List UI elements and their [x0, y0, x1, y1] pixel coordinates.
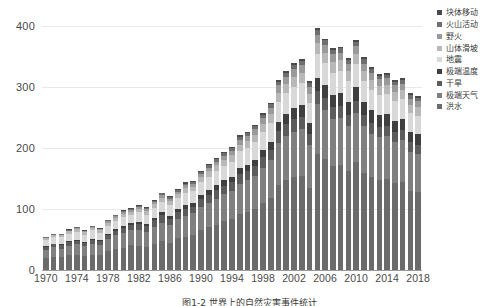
bar-segment-极端温度: [252, 160, 258, 167]
bar-segment-极端温度: [299, 105, 305, 117]
bar-segment-极端天气: [384, 136, 390, 179]
bar-2014: [384, 73, 390, 270]
bar-segment-洪水: [377, 180, 383, 270]
legend-item-7[interactable]: 极端天气: [437, 89, 499, 100]
legend-item-2[interactable]: 野火: [437, 31, 499, 42]
bar-segment-极端天气: [214, 199, 220, 225]
bar-segment-山体滑坡: [245, 141, 251, 148]
chart-legend: 块体移动火山活动野火山体滑坡地震极端温度干旱极端天气洪水: [437, 7, 499, 113]
bar-segment-极端温度: [322, 85, 328, 97]
bar-2003: [299, 59, 305, 270]
bar-segment-地震: [66, 234, 72, 241]
bar-segment-极端天气: [105, 239, 111, 251]
bar-1980: [121, 210, 127, 270]
bar-segment-山体滑坡: [361, 71, 367, 81]
bar-segment-洪水: [291, 177, 297, 270]
bar-segment-洪水: [361, 173, 367, 270]
bar-1988: [183, 182, 189, 270]
bar-segment-洪水: [245, 212, 251, 270]
bar-segment-极端天气: [291, 132, 297, 177]
bar-segment-野火: [384, 78, 390, 85]
bar-1971: [51, 233, 57, 270]
bar-segment-干旱: [214, 190, 220, 199]
legend-item-0[interactable]: 块体移动: [437, 7, 499, 18]
legend-item-6[interactable]: 干旱: [437, 78, 499, 89]
bar-segment-地震: [369, 90, 375, 111]
bar-segment-地震: [128, 215, 134, 224]
bar-segment-野火: [338, 53, 344, 61]
bar-segment-地震: [276, 102, 282, 122]
legend-item-8[interactable]: 洪水: [437, 101, 499, 112]
bar-segment-极端天气: [152, 227, 158, 243]
bar-segment-干旱: [260, 157, 266, 167]
legend-item-3[interactable]: 山体滑坡: [437, 42, 499, 53]
bar-1995: [237, 135, 243, 270]
bar-segment-极端天气: [315, 104, 321, 154]
legend-label: 野火: [446, 32, 462, 41]
bar-segment-地震: [268, 123, 274, 142]
bar-segment-洪水: [252, 209, 258, 270]
bar-segment-地震: [260, 132, 266, 150]
x-tick-label-1974: 1974: [65, 272, 89, 284]
legend-item-5[interactable]: 极端温度: [437, 66, 499, 77]
bar-segment-洪水: [113, 249, 119, 270]
legend-item-1[interactable]: 火山活动: [437, 19, 499, 30]
x-tick-label-1998: 1998: [251, 272, 275, 284]
bar-1979: [113, 215, 119, 270]
bar-segment-极端天气: [361, 126, 367, 172]
bar-segment-干旱: [229, 182, 235, 191]
bar-segment-洪水: [159, 241, 165, 270]
bar-2010: [353, 40, 359, 270]
bar-segment-地震: [361, 81, 367, 102]
bar-1976: [90, 226, 96, 270]
bar-segment-洪水: [183, 237, 189, 271]
bar-segment-干旱: [159, 215, 165, 222]
bar-1993: [221, 152, 227, 270]
bar-segment-干旱: [237, 174, 243, 184]
legend-label: 干旱: [446, 79, 462, 88]
bar-segment-地震: [105, 226, 111, 234]
bar-segment-干旱: [221, 186, 227, 195]
chart-figure: 0100200300400 19701974197819821986199019…: [0, 0, 499, 306]
legend-item-4[interactable]: 地震: [437, 54, 499, 65]
bar-segment-极端温度: [307, 123, 313, 134]
bar-2007: [330, 48, 336, 270]
bar-segment-地震: [353, 64, 359, 87]
bar-segment-干旱: [183, 209, 189, 216]
bar-segment-山体滑坡: [315, 43, 321, 54]
bar-segment-极端天气: [353, 113, 359, 162]
bar-1974: [74, 227, 80, 270]
bar-segment-山体滑坡: [307, 94, 313, 103]
bar-segment-洪水: [206, 227, 212, 270]
bar-segment-极端天气: [144, 232, 150, 247]
bar-1972: [59, 233, 65, 270]
bar-segment-地震: [338, 71, 344, 93]
bar-segment-极端温度: [384, 114, 390, 126]
bar-segment-野火: [322, 45, 328, 53]
bar-1992: [214, 158, 220, 270]
bar-segment-极端温度: [338, 93, 344, 106]
bar-segment-野火: [377, 79, 383, 86]
bar-segment-干旱: [361, 115, 367, 127]
bar-segment-干旱: [408, 142, 414, 152]
bar-segment-地震: [315, 54, 321, 77]
bar-segment-山体滑坡: [392, 92, 398, 101]
x-tick-label-2002: 2002: [282, 272, 306, 284]
bar-segment-极端温度: [276, 122, 282, 131]
bar-segment-洪水: [144, 247, 150, 270]
bar-segment-地震: [121, 217, 127, 226]
bar-segment-野火: [392, 85, 398, 92]
bar-segment-极端天气: [260, 168, 266, 203]
bar-segment-地震: [377, 95, 383, 115]
legend-label: 地震: [446, 55, 462, 64]
bar-segment-洪水: [43, 258, 49, 270]
legend-label: 洪水: [446, 102, 462, 111]
y-tick-label-400: 400: [16, 20, 35, 32]
bar-segment-地震: [229, 162, 235, 177]
bar-segment-极端温度: [346, 102, 352, 114]
bar-segment-极端天气: [74, 244, 80, 254]
bar-segment-洪水: [346, 171, 352, 270]
bar-segment-山体滑坡: [338, 60, 344, 70]
bar-segment-极端天气: [338, 118, 344, 166]
bar-segment-洪水: [299, 176, 305, 270]
